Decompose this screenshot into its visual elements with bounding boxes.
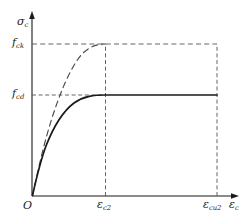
eps-c2-label: εc2 bbox=[97, 199, 111, 210]
characteristic-curve-dashed bbox=[33, 44, 106, 196]
stress-axis-label: σc bbox=[17, 16, 28, 27]
stress-axis-line bbox=[29, 11, 35, 196]
f-ck-label: fck bbox=[12, 37, 24, 48]
origin-label: O bbox=[23, 200, 32, 211]
strain-axis-label: εc bbox=[229, 199, 239, 210]
stress-strain-figure: σc εc fck fcd εc2 εcu2 O bbox=[0, 0, 250, 223]
design-curve-solid bbox=[33, 95, 218, 196]
stress-strain-plot bbox=[0, 0, 250, 223]
eps-cu2-label: εcu2 bbox=[203, 199, 221, 210]
f-cd-label: fcd bbox=[12, 88, 24, 99]
